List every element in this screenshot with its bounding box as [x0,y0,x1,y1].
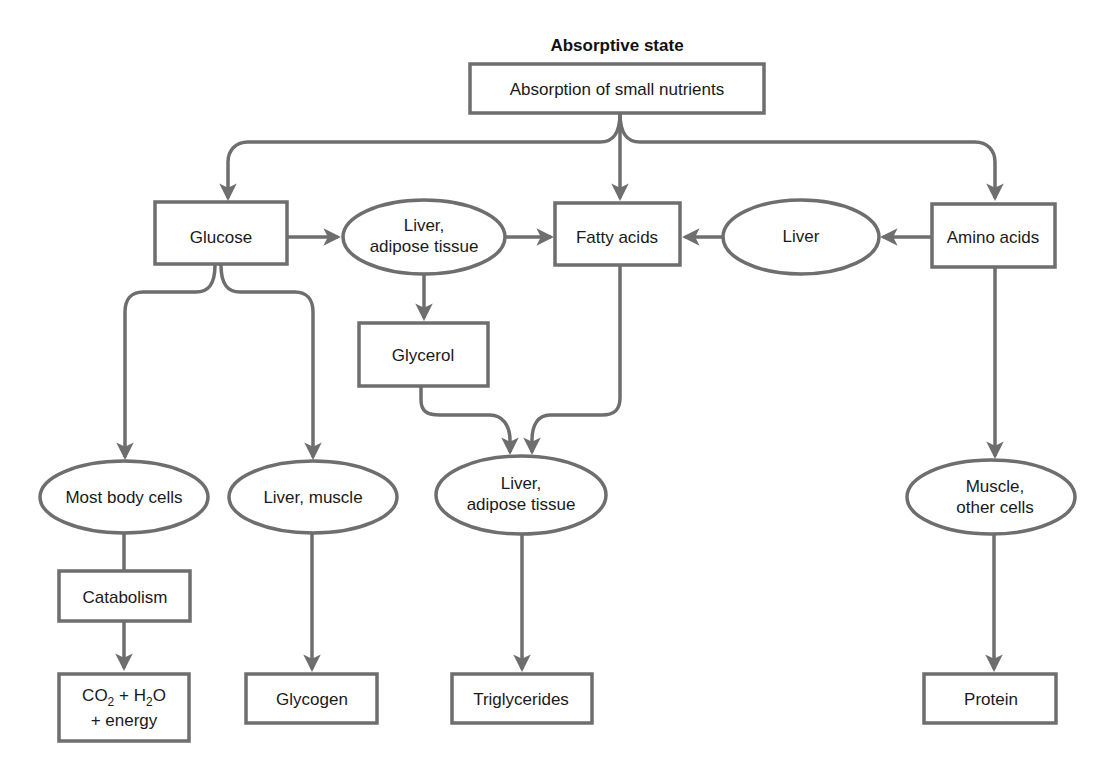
node-most-body-cells-label: Most body cells [65,488,182,507]
node-liver-adipose-top: Liver, adipose tissue [343,200,505,274]
node-liver-muscle-label: Liver, muscle [263,488,362,507]
node-liver-adipose-top-line1: Liver, [404,216,445,235]
node-liver-label: Liver [783,227,820,246]
node-liver-adipose-bottom-line2: adipose tissue [467,495,576,514]
node-glucose: Glucose [155,202,287,264]
node-muscle-other-cells-line1: Muscle, [966,477,1025,496]
edge-absorption-to-glucose [228,113,620,198]
diagram-title: Absorptive state [550,36,683,55]
node-protein: Protein [924,674,1056,723]
node-glycerol: Glycerol [359,323,488,386]
node-triglycerides-label: Triglycerides [473,690,569,709]
node-glucose-label: Glucose [190,228,252,247]
edge-fatty-acids-to-liver-adipose-lower [532,266,620,452]
node-liver-adipose-bottom-line1: Liver, [501,474,542,493]
node-glycogen-label: Glycogen [276,690,348,709]
node-liver-adipose-bottom: Liver, adipose tissue [436,456,606,534]
edge-glucose-to-most-body-cells [125,265,215,457]
node-glycogen: Glycogen [246,674,377,723]
node-catabolism: Catabolism [59,571,190,621]
node-triglycerides: Triglycerides [452,674,592,723]
node-liver: Liver [723,200,879,274]
node-co2-h2o-line2: + energy [91,711,158,730]
node-amino-acids: Amino acids [932,204,1055,267]
edges [124,113,995,669]
node-liver-muscle: Liver, muscle [229,461,397,533]
node-absorption-label: Absorption of small nutrients [510,80,725,99]
node-fatty-acids: Fatty acids [555,203,680,265]
absorptive-state-diagram: Absorptive state [0,0,1115,774]
node-most-body-cells: Most body cells [40,461,208,533]
node-muscle-other-cells-line2: other cells [956,498,1033,517]
node-absorption: Absorption of small nutrients [470,64,764,113]
edge-glucose-to-liver-muscle [221,265,313,457]
node-protein-label: Protein [964,690,1018,709]
node-liver-adipose-top-line2: adipose tissue [370,237,479,256]
node-co2-h2o-energy: CO2 + H2O + energy [59,674,189,741]
node-fatty-acids-label: Fatty acids [576,228,658,247]
edge-absorption-to-amino-acids [620,113,995,198]
node-amino-acids-label: Amino acids [947,228,1040,247]
edge-glycerol-to-liver-adipose-lower [421,387,510,452]
node-muscle-other-cells: Muscle, other cells [907,460,1075,534]
node-catabolism-label: Catabolism [82,588,167,607]
node-glycerol-label: Glycerol [392,346,454,365]
